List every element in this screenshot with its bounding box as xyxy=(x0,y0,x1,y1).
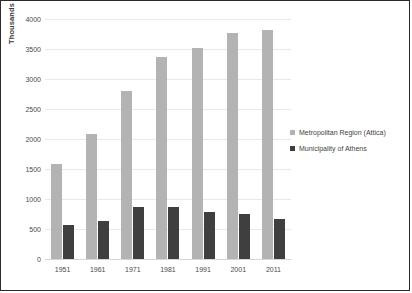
y-axis-tick-label: 1000 xyxy=(25,196,41,203)
plot-area: 40003500300025002000150010005000 1951196… xyxy=(45,19,291,259)
chart-legend: Metropolitan Region (Attica)Municipality… xyxy=(290,129,408,161)
bar-group: 1951 xyxy=(45,19,80,259)
bar xyxy=(168,207,179,259)
bar xyxy=(204,212,215,259)
y-axis-tick-label: 500 xyxy=(29,226,41,233)
bar xyxy=(239,214,250,259)
bar-group: 1961 xyxy=(80,19,115,259)
bar-group: 2011 xyxy=(256,19,291,259)
bar xyxy=(133,207,144,259)
bar-group: 1971 xyxy=(115,19,150,259)
y-axis-tick-label: 3000 xyxy=(25,76,41,83)
bar-group: 1981 xyxy=(150,19,185,259)
legend-item[interactable]: Metropolitan Region (Attica) xyxy=(290,129,408,136)
x-axis-tick-label: 2001 xyxy=(230,266,246,273)
x-axis-tick-label: 1961 xyxy=(90,266,106,273)
chart-figure: Thousands 400035003000250020001500100050… xyxy=(0,0,410,291)
bar xyxy=(262,30,273,259)
legend-swatch-icon xyxy=(290,130,295,135)
legend-item-label: Municipality of Athens xyxy=(299,145,367,152)
y-axis-tick-label: 0 xyxy=(37,256,41,263)
legend-swatch-icon xyxy=(290,146,295,151)
y-axis-title-label: Thousands xyxy=(7,3,16,44)
x-axis-tick-label: 2011 xyxy=(266,266,281,273)
y-axis-title: Thousands xyxy=(4,19,18,99)
x-axis-tick-label: 1951 xyxy=(55,266,71,273)
bar xyxy=(121,91,132,259)
bar xyxy=(98,221,109,259)
y-axis-tick-label: 2000 xyxy=(25,136,41,143)
bar-groups: 1951196119711981199120012011 xyxy=(45,19,291,259)
x-axis-tick-label: 1971 xyxy=(125,266,141,273)
x-axis-tick-label: 1991 xyxy=(195,266,211,273)
bar xyxy=(86,134,97,259)
legend-item[interactable]: Municipality of Athens xyxy=(290,145,408,152)
y-axis-tick-label: 4000 xyxy=(25,16,41,23)
bar xyxy=(63,225,74,259)
bar xyxy=(156,57,167,259)
legend-item-label: Metropolitan Region (Attica) xyxy=(299,129,386,136)
bar xyxy=(51,164,62,259)
bar xyxy=(227,33,238,259)
y-axis-tick-label: 3500 xyxy=(25,46,41,53)
gridline: 0 xyxy=(45,259,291,260)
bar xyxy=(192,48,203,259)
x-axis-tick-label: 1981 xyxy=(160,266,176,273)
bar xyxy=(274,219,285,259)
bar-group: 1991 xyxy=(186,19,221,259)
bar-group: 2001 xyxy=(221,19,256,259)
y-axis-tick-label: 1500 xyxy=(25,166,41,173)
y-axis-tick-label: 2500 xyxy=(25,106,41,113)
